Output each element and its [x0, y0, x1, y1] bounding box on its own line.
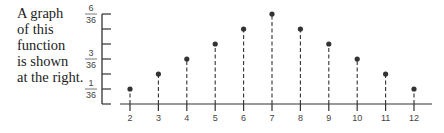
y-tick-label-numerator: 6	[88, 3, 93, 13]
x-tick-label: 6	[241, 113, 246, 123]
x-tick-label: 5	[213, 113, 218, 123]
data-point	[298, 26, 303, 31]
y-tick-label-denominator: 36	[86, 90, 96, 100]
x-tick-label: 11	[381, 113, 390, 123]
data-point	[213, 41, 218, 46]
data-point	[156, 71, 161, 76]
x-tick-label: 3	[156, 113, 161, 123]
x-tick-label: 7	[269, 113, 274, 123]
x-tick-label: 8	[298, 113, 303, 123]
data-point	[269, 11, 274, 16]
data-point	[411, 86, 416, 91]
x-tick-label: 2	[127, 113, 132, 123]
x-tick-label: 9	[326, 113, 331, 123]
data-point	[326, 41, 331, 46]
x-tick-label: 12	[409, 113, 419, 123]
y-tick-label-denominator: 36	[86, 15, 96, 25]
x-tick-label: 10	[352, 113, 362, 123]
data-point	[383, 71, 388, 76]
data-point	[127, 86, 132, 91]
x-tick-label: 4	[184, 113, 189, 123]
y-tick-label-denominator: 36	[86, 60, 96, 70]
data-point	[355, 56, 360, 61]
data-point	[184, 56, 189, 61]
data-point	[241, 26, 246, 31]
stem-chart: 13633663623456789101112	[0, 0, 444, 133]
y-tick-label-numerator: 3	[88, 48, 93, 58]
y-tick-label-numerator: 1	[88, 78, 93, 88]
